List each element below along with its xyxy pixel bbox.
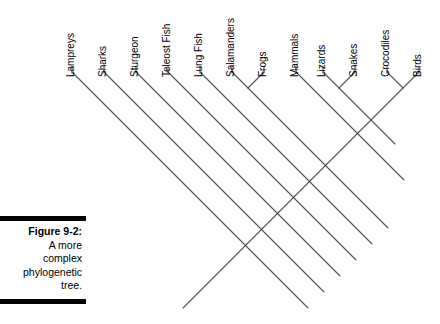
taxon-label-mammals: Mammals <box>289 34 300 77</box>
branch-lung-fish <box>200 72 372 244</box>
branch-sturgeon <box>136 72 340 276</box>
caption-line-1: A more <box>0 239 82 253</box>
branch-mammals <box>296 72 404 180</box>
taxon-label-lizards: Lizards <box>316 45 327 77</box>
caption-line-4: tree. <box>0 279 82 293</box>
taxon-label-salamanders: Salamanders <box>225 18 236 77</box>
taxon-label-lung-fish: Lung Fish <box>193 33 204 77</box>
taxon-label-crocodiles: Crocodiles <box>380 30 391 77</box>
branch-lampreys <box>72 72 308 308</box>
taxon-label-birds: Birds <box>412 54 423 77</box>
taxon-label-lampreys: Lampreys <box>65 33 76 77</box>
taxon-label-frogs: Frogs <box>257 51 268 77</box>
branch-amphibian-stem <box>248 88 388 228</box>
branch-sharks <box>104 72 324 292</box>
caption-line-3: phylogenetic <box>0 266 82 280</box>
figure-container: Lampreys Sharks Sturgeon Teleost Fish Lu… <box>0 0 440 324</box>
branch-squamate-stem <box>339 88 395 144</box>
caption-line-2: complex <box>0 252 82 266</box>
caption-rule-bottom <box>0 299 86 304</box>
figure-caption-block: Figure 9-2: A more complex phylogenetic … <box>0 216 86 304</box>
figure-caption-text: Figure 9-2: A more complex phylogenetic … <box>0 221 86 296</box>
taxon-label-snakes: Snakes <box>348 44 359 77</box>
figure-number: Figure 9-2: <box>0 225 82 239</box>
branch-teleost-fish <box>168 72 356 260</box>
taxon-label-sharks: Sharks <box>97 46 108 77</box>
taxon-label-teleost-fish: Teleost Fish <box>161 24 172 77</box>
taxon-label-sturgeon: Sturgeon <box>129 36 140 77</box>
branch-main-spine <box>183 88 403 308</box>
